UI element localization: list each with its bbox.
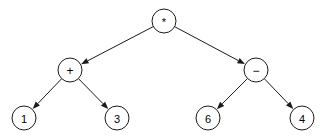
edge-arrowhead-icon <box>81 58 89 64</box>
tree-canvas: *+−1364 <box>0 0 326 139</box>
node-label: 1 <box>21 113 27 125</box>
node-label: + <box>66 64 73 78</box>
node-label: * <box>162 16 167 28</box>
tree-node-root[interactable]: * <box>152 9 176 33</box>
tree-edge <box>175 27 245 64</box>
node-label: 4 <box>299 113 305 125</box>
node-label: 6 <box>205 113 211 125</box>
nodes-layer: *+−1364 <box>12 9 314 130</box>
tree-edge <box>217 78 248 109</box>
tree-node-plus[interactable]: + <box>58 58 82 82</box>
tree-node-three[interactable]: 3 <box>105 106 129 130</box>
tree-edge <box>78 79 108 110</box>
tree-edge <box>81 27 153 65</box>
expression-tree-diagram: *+−1364 <box>0 0 326 139</box>
tree-node-minus[interactable]: − <box>244 58 268 82</box>
tree-node-four[interactable]: 4 <box>290 106 314 130</box>
tree-edge <box>264 79 293 109</box>
tree-node-six[interactable]: 6 <box>196 106 220 130</box>
tree-edge <box>33 79 62 109</box>
tree-node-one[interactable]: 1 <box>12 106 36 130</box>
node-label: 3 <box>114 113 120 125</box>
node-label: − <box>252 64 259 78</box>
edge-arrowhead-icon <box>237 58 245 64</box>
